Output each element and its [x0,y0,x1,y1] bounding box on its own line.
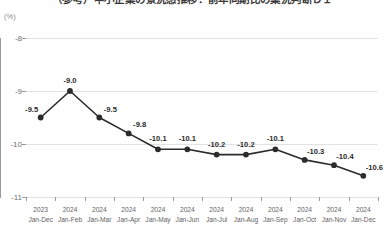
data-point-marker [67,88,73,94]
data-point-label: -9.5 [104,104,117,113]
data-point-label: -10.1 [267,134,284,143]
data-point-label: -10.2 [208,139,225,148]
data-point-marker [331,162,337,168]
line-chart: （参考）中小企業の景況感推移：前年同期比の業況判断ＤＩ (%) -8-9-10-… [0,0,385,238]
data-point-label: -10.1 [149,134,166,143]
series-layer [0,0,385,238]
data-point-label: -10.4 [336,152,353,161]
data-point-marker [243,152,249,158]
data-point-marker [214,152,220,158]
data-point-label: -10.3 [307,146,324,155]
data-point-label: -10.1 [179,134,196,143]
data-point-marker [302,157,308,163]
series-markers [38,88,366,179]
series-line [41,91,364,176]
data-point-label: -9.8 [133,120,146,129]
data-point-label: -9.5 [25,104,38,113]
data-point-marker [126,131,132,137]
data-point-marker [38,115,44,121]
data-point-label: -10.2 [237,139,254,148]
data-point-marker [272,146,278,152]
data-point-marker [360,173,366,179]
data-point-label: -10.6 [366,162,383,171]
data-point-marker [96,115,102,121]
data-point-label: -9.0 [63,76,76,85]
data-point-marker [184,146,190,152]
data-point-marker [155,146,161,152]
